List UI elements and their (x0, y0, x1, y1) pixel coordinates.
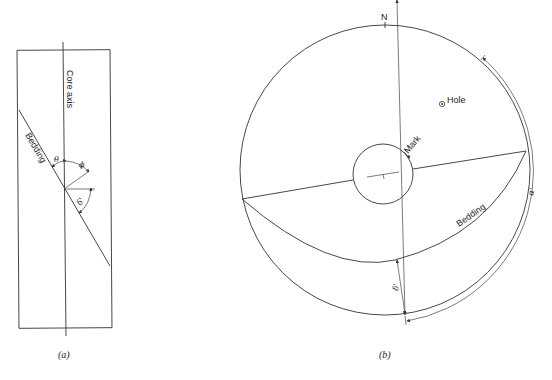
theta-label: θ (54, 155, 59, 164)
core-center-tick (383, 174, 384, 179)
figure-b-stereonet: N Hole Mark Bedding δ' α' (b) (240, 0, 537, 361)
hole-label: Hole (447, 95, 466, 105)
mark-label: Mark (402, 133, 423, 155)
caption-b: (b) (379, 349, 391, 361)
bedding-label-b: Bedding (454, 202, 487, 229)
delta-prime-label-a: δ' (75, 196, 86, 207)
alpha-prime-arc (407, 58, 534, 321)
figure-a-core-diagram: Core axis Bedding θ ϕ δ' (a) (17, 42, 112, 361)
primitive-circle (240, 25, 530, 315)
bedding-normal (64, 172, 88, 189)
hole-center-dot (441, 103, 443, 105)
bedding-strike-line (242, 180, 353, 199)
north-label: N (381, 12, 388, 22)
phi-label: ϕ (79, 160, 85, 169)
bedding-label-a: Bedding (23, 131, 48, 165)
caption-a: (a) (58, 349, 70, 361)
core-axis-label: Core axis (65, 70, 75, 109)
delta-prime-label-b: δ' (391, 283, 401, 291)
phi-arc (66, 161, 89, 172)
bedding-strike-line-right (413, 151, 526, 169)
alpha-prime-label: α' (526, 187, 537, 197)
alpha-end-tick (405, 316, 406, 325)
